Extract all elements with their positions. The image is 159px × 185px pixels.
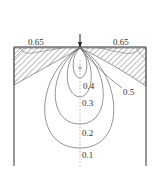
label-04: 0.4 xyxy=(83,82,94,91)
load-arrow-icon xyxy=(78,34,82,48)
hatched-region-left xyxy=(14,48,80,85)
contour-03 xyxy=(55,48,103,124)
label-01: 0.1 xyxy=(82,151,93,160)
label-065-right: 0.65 xyxy=(113,38,129,47)
label-065-left: 0.65 xyxy=(28,38,44,47)
contour-diagram xyxy=(0,0,159,185)
label-05: 0.5 xyxy=(123,88,134,97)
label-02: 0.2 xyxy=(82,129,93,138)
label-03: 0.3 xyxy=(82,99,93,108)
